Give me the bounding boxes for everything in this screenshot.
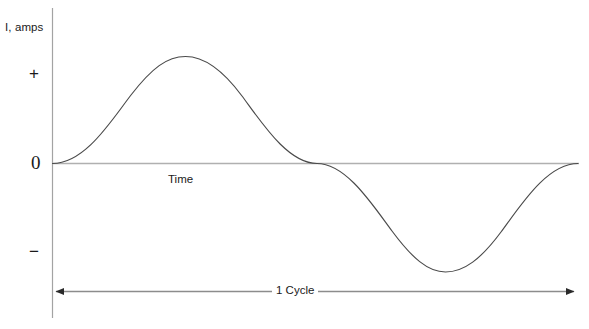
y-tick-label-positive: + bbox=[29, 65, 39, 82]
figure-canvas: I, amps + 0 − Time 1 Cycle bbox=[0, 0, 589, 329]
y-tick-label-negative: − bbox=[29, 243, 39, 260]
y-tick-label-zero: 0 bbox=[31, 153, 41, 172]
x-axis-title: Time bbox=[168, 174, 193, 186]
ac-waveform-plot bbox=[0, 0, 589, 329]
y-axis-title: I, amps bbox=[5, 22, 43, 34]
cycle-span-label: 1 Cycle bbox=[272, 285, 318, 297]
